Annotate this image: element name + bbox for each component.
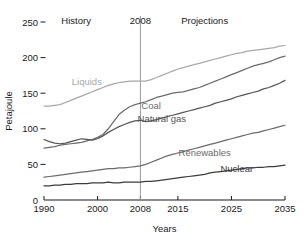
y-axis-tick-label: 250 <box>22 17 38 28</box>
annotation-history: History <box>61 15 91 26</box>
y-axis-tick-label: 100 <box>22 123 38 134</box>
x-axis-tick-label: 2015 <box>167 203 188 214</box>
series-label-coal: Coal <box>141 100 161 111</box>
y-axis-title: Petajoule <box>3 91 14 131</box>
series-label-liquids: Liquids <box>72 76 102 87</box>
series-label-renewables: Renewables <box>179 147 232 158</box>
y-axis-tick-label: 200 <box>22 52 38 63</box>
series-label-natural-gas: Natural gas <box>138 113 187 124</box>
x-axis-tick-label: 2025 <box>221 203 242 214</box>
y-axis-tick-label: 50 <box>27 159 38 170</box>
annotation-divider-year: 2008 <box>130 15 151 26</box>
y-axis-tick-label: 150 <box>22 88 38 99</box>
x-axis-tick-label: 2008 <box>130 203 151 214</box>
x-axis-title: Years <box>153 223 177 234</box>
energy-consumption-line-chart: 050100150200250199020002008201520252035H… <box>0 0 303 240</box>
series-label-nuclear: Nuclear <box>220 163 253 174</box>
chart-container: 050100150200250199020002008201520252035H… <box>0 0 303 240</box>
x-axis-tick-label: 2000 <box>87 203 108 214</box>
x-axis-tick-label: 1990 <box>33 203 54 214</box>
annotation-projections: Projections <box>181 15 228 26</box>
x-axis-tick-label: 2035 <box>274 203 295 214</box>
